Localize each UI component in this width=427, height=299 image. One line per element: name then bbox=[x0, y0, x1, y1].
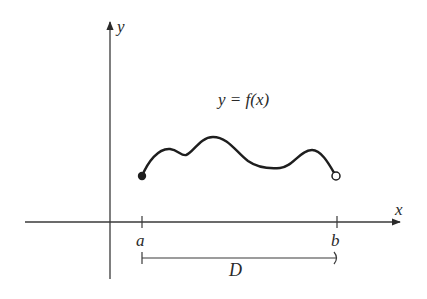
function-curve bbox=[142, 137, 336, 176]
function-label: y = f(x) bbox=[216, 90, 269, 109]
tick-a-label: a bbox=[136, 231, 145, 250]
tick-b-label: b bbox=[331, 231, 340, 250]
open-endpoint-icon bbox=[332, 172, 340, 180]
y-axis-label: y bbox=[115, 17, 125, 36]
closed-endpoint-icon bbox=[138, 172, 146, 180]
function-domain-diagram: y x a b D y = f(x) bbox=[0, 0, 427, 299]
x-axis-label: x bbox=[394, 200, 403, 219]
domain-label: D bbox=[228, 260, 242, 280]
